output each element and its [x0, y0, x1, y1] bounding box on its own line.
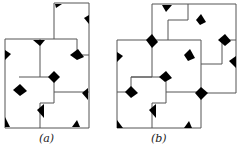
figure-a-label: (a)	[39, 132, 54, 145]
figure-b-label: (b)	[151, 132, 167, 145]
figure-a	[5, 3, 89, 128]
tiling-diagram	[0, 0, 239, 148]
figure-b	[117, 4, 236, 128]
